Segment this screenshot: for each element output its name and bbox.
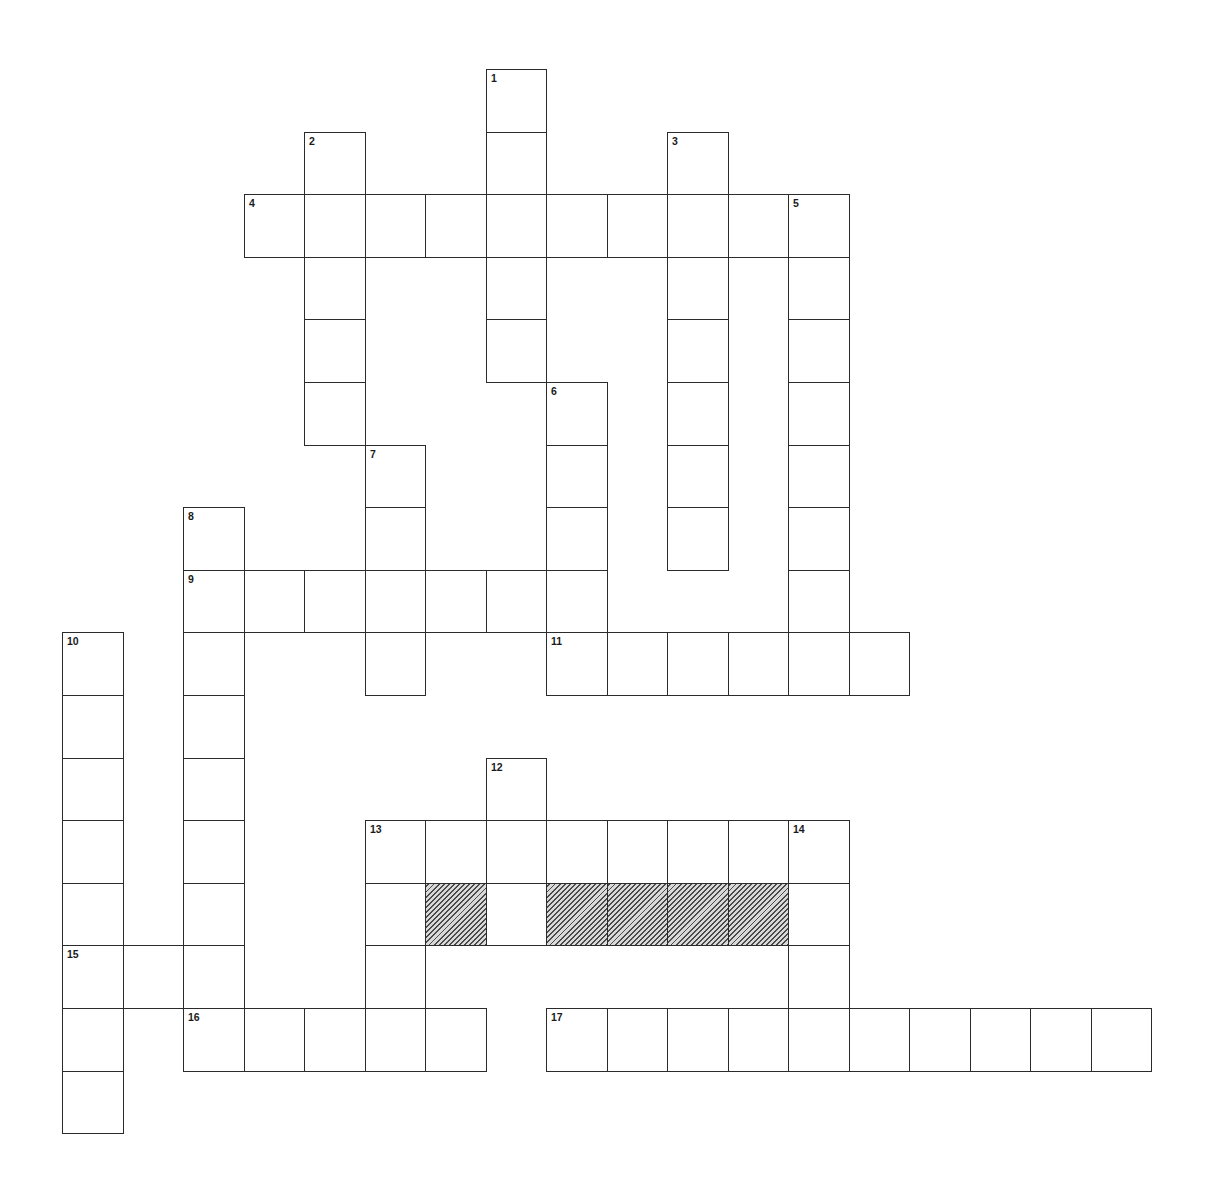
crossword-cell[interactable]: [365, 883, 426, 946]
crossword-cell[interactable]: [607, 632, 668, 696]
cell-letter-input[interactable]: [789, 821, 849, 883]
crossword-cell[interactable]: [667, 820, 729, 884]
crossword-cell[interactable]: [909, 1008, 971, 1072]
crossword-cell[interactable]: [788, 883, 850, 946]
cell-letter-input[interactable]: [305, 195, 365, 257]
crossword-cell[interactable]: [62, 1008, 124, 1072]
crossword-cell[interactable]: 6: [546, 382, 608, 446]
cell-letter-input[interactable]: [184, 571, 244, 632]
crossword-cell[interactable]: [62, 695, 124, 759]
cell-letter-input[interactable]: [63, 759, 123, 820]
crossword-cell[interactable]: [546, 194, 608, 258]
cell-letter-input[interactable]: [668, 383, 728, 445]
crossword-cell[interactable]: [62, 883, 124, 946]
crossword-cell[interactable]: [667, 507, 729, 571]
crossword-cell[interactable]: [667, 1008, 729, 1072]
cell-letter-input[interactable]: [366, 884, 425, 945]
crossword-cell[interactable]: 3: [667, 132, 729, 195]
cell-letter-input[interactable]: [366, 571, 425, 632]
crossword-cell[interactable]: [425, 570, 487, 633]
cell-letter-input[interactable]: [668, 446, 728, 507]
cell-letter-input[interactable]: [547, 633, 607, 695]
crossword-cell[interactable]: [667, 194, 729, 258]
cell-letter-input[interactable]: [305, 133, 365, 194]
cell-letter-input[interactable]: [426, 821, 486, 883]
cell-letter-input[interactable]: [729, 633, 788, 695]
cell-letter-input[interactable]: [668, 133, 728, 194]
crossword-cell[interactable]: [546, 445, 608, 508]
cell-letter-input[interactable]: [184, 821, 244, 883]
crossword-cell[interactable]: [183, 695, 245, 759]
crossword-cell[interactable]: [183, 945, 245, 1009]
cell-letter-input[interactable]: [245, 571, 304, 632]
crossword-cell[interactable]: [244, 1008, 305, 1072]
crossword-cell[interactable]: 8: [183, 507, 245, 571]
cell-letter-input[interactable]: [366, 821, 425, 883]
crossword-cell[interactable]: [607, 194, 668, 258]
cell-letter-input[interactable]: [729, 821, 788, 883]
cell-letter-input[interactable]: [63, 696, 123, 758]
crossword-cell[interactable]: [304, 382, 366, 446]
crossword-cell[interactable]: [62, 820, 124, 884]
cell-letter-input[interactable]: [789, 446, 849, 507]
crossword-cell[interactable]: [607, 820, 668, 884]
crossword-cell[interactable]: [728, 1008, 789, 1072]
crossword-cell[interactable]: 14: [788, 820, 850, 884]
cell-letter-input[interactable]: [608, 633, 667, 695]
cell-letter-input[interactable]: [789, 508, 849, 570]
crossword-cell[interactable]: [244, 570, 305, 633]
cell-letter-input[interactable]: [63, 1072, 123, 1133]
crossword-cell[interactable]: [365, 570, 426, 633]
crossword-cell[interactable]: [667, 632, 729, 696]
cell-letter-input[interactable]: [547, 1009, 607, 1071]
crossword-cell[interactable]: [788, 632, 850, 696]
cell-letter-input[interactable]: [305, 1009, 365, 1071]
crossword-cell[interactable]: [788, 319, 850, 383]
crossword-cell[interactable]: 7: [365, 445, 426, 508]
crossword-cell[interactable]: [425, 194, 487, 258]
cell-letter-input[interactable]: [184, 1009, 244, 1071]
cell-letter-input[interactable]: [547, 821, 607, 883]
cell-letter-input[interactable]: [63, 1009, 123, 1071]
crossword-cell[interactable]: [486, 883, 547, 946]
crossword-cell[interactable]: [667, 382, 729, 446]
crossword-cell[interactable]: [1091, 1008, 1152, 1072]
cell-letter-input[interactable]: [487, 571, 546, 632]
crossword-cell[interactable]: 9: [183, 570, 245, 633]
crossword-cell[interactable]: [788, 945, 850, 1009]
cell-letter-input[interactable]: [426, 195, 486, 257]
cell-letter-input[interactable]: [1092, 1009, 1151, 1071]
crossword-cell[interactable]: 16: [183, 1008, 245, 1072]
crossword-cell[interactable]: [788, 1008, 850, 1072]
crossword-cell[interactable]: [304, 570, 366, 633]
cell-letter-input[interactable]: [668, 195, 728, 257]
crossword-cell[interactable]: [486, 257, 547, 320]
cell-letter-input[interactable]: [184, 633, 244, 695]
crossword-cell[interactable]: [425, 820, 487, 884]
cell-letter-input[interactable]: [305, 320, 365, 382]
crossword-cell[interactable]: [728, 632, 789, 696]
cell-letter-input[interactable]: [789, 946, 849, 1008]
crossword-cell[interactable]: [486, 132, 547, 195]
crossword-cell[interactable]: [365, 507, 426, 571]
cell-letter-input[interactable]: [789, 320, 849, 382]
cell-letter-input[interactable]: [729, 195, 788, 257]
crossword-cell[interactable]: 17: [546, 1008, 608, 1072]
crossword-cell[interactable]: [486, 194, 547, 258]
crossword-cell[interactable]: [62, 758, 124, 821]
cell-letter-input[interactable]: [366, 633, 425, 695]
cell-letter-input[interactable]: [668, 320, 728, 382]
cell-letter-input[interactable]: [487, 884, 546, 945]
crossword-cell[interactable]: [365, 945, 426, 1009]
crossword-cell[interactable]: [183, 632, 245, 696]
cell-letter-input[interactable]: [789, 195, 849, 257]
cell-letter-input[interactable]: [245, 1009, 304, 1071]
cell-letter-input[interactable]: [971, 1009, 1030, 1071]
cell-letter-input[interactable]: [850, 633, 909, 695]
cell-letter-input[interactable]: [63, 946, 123, 1008]
crossword-cell[interactable]: [1030, 1008, 1092, 1072]
crossword-cell[interactable]: 13: [365, 820, 426, 884]
cell-letter-input[interactable]: [366, 1009, 425, 1071]
crossword-cell[interactable]: [788, 257, 850, 320]
cell-letter-input[interactable]: [184, 946, 244, 1008]
